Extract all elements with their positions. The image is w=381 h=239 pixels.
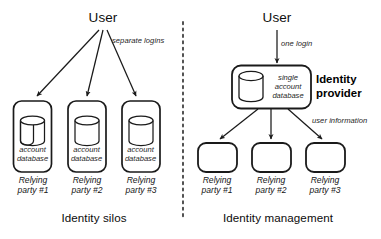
relying-party-label-right-3: Relyingparty #3 xyxy=(300,175,350,196)
rp-line-1: Relying xyxy=(19,175,48,185)
relying-party-box-1 xyxy=(198,143,237,172)
relying-party-label-left-2: Relyingparty #2 xyxy=(62,175,112,196)
separate-logins-annotation: separate logins xyxy=(112,37,176,45)
relying-party-label-left-3: Relyingparty #3 xyxy=(116,175,166,196)
rp-line-1: Relying xyxy=(203,175,232,185)
provider-distribution-arrows xyxy=(220,109,322,139)
db-line-1: account xyxy=(19,145,46,154)
right-panel-caption: Identity management xyxy=(213,212,343,224)
relying-party-label-left-1: Relyingparty #1 xyxy=(8,175,58,196)
provider-line-2: provider xyxy=(316,87,362,99)
provider-line-1: Identity xyxy=(316,73,357,85)
rp-line-2: party #2 xyxy=(255,185,286,195)
right-user-label: User xyxy=(247,11,307,25)
identity-diagram: User separate logins accountdatabase acc… xyxy=(0,0,381,239)
db-line-2: account xyxy=(275,82,302,91)
rp-line-2: party #1 xyxy=(17,185,48,195)
rp-line-1: Relying xyxy=(311,175,340,185)
db-line-3: database xyxy=(272,91,303,100)
account-database-label-2: accountdatabase xyxy=(64,146,109,164)
rp-line-1: Relying xyxy=(127,175,156,185)
identity-provider-label: Identityprovider xyxy=(316,73,380,101)
relying-party-boxes xyxy=(198,143,345,172)
left-panel-caption: Identity silos xyxy=(44,212,144,224)
rp-line-2: party #2 xyxy=(71,185,102,195)
relying-party-box-2 xyxy=(252,143,291,172)
db-line-2: database xyxy=(71,154,102,163)
account-database-label-1: accountdatabase xyxy=(10,146,55,164)
rp-line-1: Relying xyxy=(257,175,286,185)
db-line-1: account xyxy=(127,145,154,154)
rp-line-2: party #3 xyxy=(125,185,156,195)
account-database-label-3: accountdatabase xyxy=(118,146,163,164)
db-line-2: database xyxy=(125,154,156,163)
relying-party-label-right-2: Relyingparty #2 xyxy=(246,175,296,196)
db-line-1: account xyxy=(73,145,100,154)
arrow-provider-to-party-1 xyxy=(220,109,258,139)
db-line-1: single xyxy=(278,73,298,82)
one-login-annotation: one login xyxy=(281,40,331,48)
relying-party-label-right-1: Relyingparty #1 xyxy=(192,175,242,196)
rp-line-1: Relying xyxy=(73,175,102,185)
rp-line-2: party #3 xyxy=(309,185,340,195)
single-account-database-label: singleaccountdatabase xyxy=(265,74,311,101)
user-information-annotation: user information xyxy=(312,117,380,125)
left-user-label: User xyxy=(73,11,133,25)
relying-party-box-3 xyxy=(306,143,345,172)
rp-line-2: party #1 xyxy=(201,185,232,195)
db-line-2: database xyxy=(17,154,48,163)
